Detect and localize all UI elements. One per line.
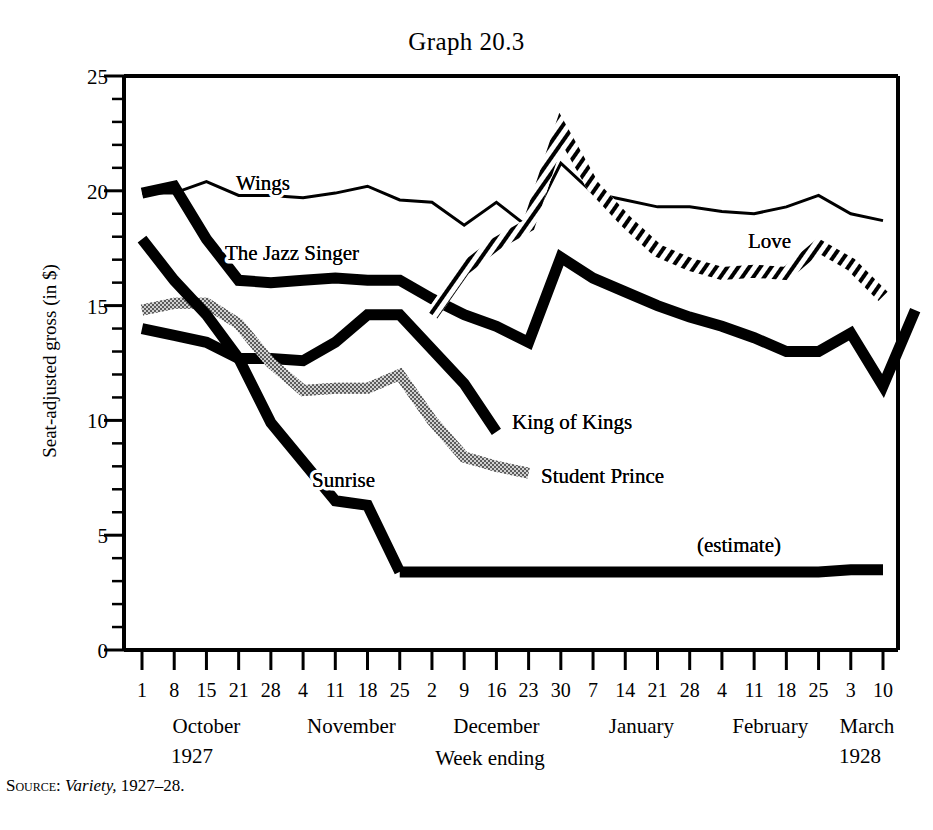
series-label-student-prince: Student Prince	[541, 464, 664, 488]
x-axis-ticks	[142, 650, 883, 670]
y-tick-label: 15	[87, 295, 108, 319]
x-tick-label: 4	[717, 679, 727, 701]
x-tick-label: 23	[519, 679, 539, 701]
x-tick-label: 18	[776, 679, 796, 701]
series-label-love: Love	[748, 229, 791, 253]
x-tick-label: 15	[196, 679, 216, 701]
x-tick-label: 14	[615, 679, 635, 701]
x-tick-label: 8	[169, 679, 179, 701]
month-label: November	[307, 714, 396, 738]
year-start-label: 1927	[122, 744, 262, 769]
series-line-sunrise-estimate	[400, 570, 883, 572]
series-label-sunrise: Sunrise	[312, 468, 375, 492]
year-end-label: 1928	[800, 744, 920, 769]
series-line-king-of-kings	[142, 315, 496, 432]
series-label-estimate: (estimate)	[697, 533, 781, 557]
x-tick-label: 11	[326, 679, 345, 701]
source-note-years: 1927–28.	[121, 776, 185, 795]
y-tick-label: 10	[87, 409, 108, 433]
y-tick-label: 20	[87, 180, 108, 204]
y-axis-ticks	[104, 76, 124, 650]
x-tick-label: 3	[846, 679, 856, 701]
x-tick-label: 7	[588, 679, 598, 701]
series-line-sunrise	[142, 239, 400, 572]
x-tick-label: 10	[873, 679, 893, 701]
source-note: Source: Variety, 1927–28.	[6, 776, 185, 796]
line-chart-plot: 0510152025 18152128411182529162330714212…	[0, 0, 933, 740]
x-tick-label: 4	[298, 679, 308, 701]
x-axis-tick-labels: 1815212841118252916233071421284111825310	[137, 679, 893, 701]
y-tick-label: 5	[98, 524, 109, 548]
x-tick-label: 30	[551, 679, 571, 701]
series-label-wings: Wings	[236, 171, 290, 195]
x-axis-title: Week ending	[380, 746, 600, 771]
source-note-label: Source:	[6, 776, 61, 795]
x-tick-label: 25	[809, 679, 829, 701]
x-tick-label: 16	[486, 679, 506, 701]
series-label-jazz-singer: The Jazz Singer	[225, 241, 359, 265]
x-tick-label: 28	[261, 679, 281, 701]
x-tick-label: 1	[137, 679, 147, 701]
month-label: March	[839, 714, 894, 738]
month-label: December	[453, 714, 539, 738]
y-tick-label: 0	[98, 639, 109, 663]
y-tick-label: 25	[87, 65, 108, 89]
x-tick-label: 9	[459, 679, 469, 701]
series-paths	[142, 129, 915, 572]
x-tick-label: 28	[680, 679, 700, 701]
x-tick-label: 21	[647, 679, 667, 701]
x-tick-label: 25	[390, 679, 410, 701]
x-tick-label: 21	[229, 679, 249, 701]
x-tick-label: 2	[427, 679, 437, 701]
month-label: February	[732, 714, 808, 738]
chart-figure: Graph 20.3 Seat-adjusted gross (in $) 05…	[0, 0, 933, 830]
x-axis-month-labels: OctoberNovemberDecemberJanuaryFebruaryMa…	[173, 714, 895, 738]
month-label: January	[609, 714, 675, 738]
series-line-love	[432, 129, 883, 315]
x-tick-label: 18	[358, 679, 378, 701]
y-axis-tick-labels: 0510152025	[87, 65, 108, 663]
month-label: October	[173, 714, 241, 738]
series-label-king-of-kings: King of Kings	[512, 410, 632, 434]
x-tick-label: 11	[744, 679, 763, 701]
source-note-work: Variety,	[65, 776, 116, 795]
series-line-love-base	[432, 129, 883, 315]
